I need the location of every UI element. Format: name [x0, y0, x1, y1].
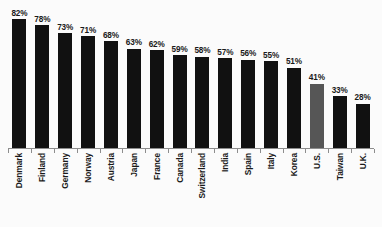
bar-slot: 28% — [351, 0, 374, 148]
bar-slot: 59% — [168, 0, 191, 148]
bar[interactable] — [287, 68, 301, 148]
category-label-slot: Japan — [122, 153, 145, 227]
bar[interactable] — [35, 25, 49, 148]
category-label-slot: Norway — [77, 153, 100, 227]
category-label: Italy — [267, 153, 276, 169]
bar[interactable] — [310, 84, 324, 149]
bar-value-label: 59% — [168, 45, 191, 54]
bar-value-label: 73% — [54, 23, 77, 32]
category-label-slot: Denmark — [8, 153, 31, 227]
category-label-slot: Austria — [100, 153, 123, 227]
bar-slot: 62% — [145, 0, 168, 148]
bar-value-label: 28% — [351, 93, 374, 102]
bar[interactable] — [218, 58, 232, 148]
bar[interactable] — [12, 19, 26, 148]
bar-slot: 78% — [31, 0, 54, 148]
category-label-slot: U.S. — [305, 153, 328, 227]
bar-slot: 63% — [122, 0, 145, 148]
category-label: U.S. — [312, 153, 321, 169]
category-label: Austria — [106, 153, 115, 181]
category-label-slot: Finland — [31, 153, 54, 227]
category-label-slot: Spain — [237, 153, 260, 227]
bar[interactable] — [356, 104, 370, 148]
bar[interactable] — [104, 41, 118, 148]
bar-value-label: 68% — [100, 31, 123, 40]
category-label-slot: Germany — [54, 153, 77, 227]
bar[interactable] — [333, 96, 347, 148]
plot-area: 82%78%73%71%68%63%62%59%58%57%56%55%51%4… — [8, 0, 374, 148]
bar-value-label: 56% — [237, 49, 260, 58]
category-label: Taiwan — [335, 153, 344, 180]
bar[interactable] — [81, 36, 95, 148]
bar-value-label: 82% — [8, 9, 31, 18]
category-label-slot: Switzerland — [191, 153, 214, 227]
bar[interactable] — [264, 61, 278, 148]
axis-tick — [374, 149, 375, 153]
bar-value-label: 58% — [191, 46, 214, 55]
bar-value-label: 63% — [122, 38, 145, 47]
category-label: Korea — [289, 153, 298, 176]
category-labels: DenmarkFinlandGermanyNorwayAustriaJapanF… — [8, 153, 374, 227]
category-label: France — [152, 153, 161, 180]
bar-value-label: 55% — [260, 51, 283, 60]
category-label: Japan — [129, 153, 138, 177]
category-label-slot: Italy — [260, 153, 283, 227]
bar-slot: 82% — [8, 0, 31, 148]
category-label-slot: France — [145, 153, 168, 227]
category-label: Germany — [61, 153, 70, 189]
bar-slot: 33% — [328, 0, 351, 148]
category-label: Denmark — [15, 153, 24, 188]
bar-slot: 73% — [54, 0, 77, 148]
bar-value-label: 41% — [305, 73, 328, 82]
bar-slot: 68% — [100, 0, 123, 148]
category-label: Norway — [84, 153, 93, 183]
bar-slot: 71% — [77, 0, 100, 148]
category-label: U.K. — [358, 153, 367, 169]
category-label-slot: U.K. — [351, 153, 374, 227]
category-label-slot: Canada — [168, 153, 191, 227]
bar-value-label: 78% — [31, 15, 54, 24]
bar-chart: 82%78%73%71%68%63%62%59%58%57%56%55%51%4… — [0, 0, 382, 227]
bar-value-label: 71% — [77, 26, 100, 35]
bar-slot: 51% — [283, 0, 306, 148]
bar-value-label: 33% — [328, 86, 351, 95]
bar[interactable] — [173, 55, 187, 148]
bar-slot: 41% — [305, 0, 328, 148]
category-label: Spain — [244, 153, 253, 175]
category-label: Finland — [38, 153, 47, 182]
bar[interactable] — [150, 50, 164, 148]
category-label-slot: Taiwan — [328, 153, 351, 227]
bar[interactable] — [58, 33, 72, 148]
category-label: India — [221, 153, 230, 172]
bar[interactable] — [195, 57, 209, 148]
bar-slot: 56% — [237, 0, 260, 148]
bar-slot: 57% — [214, 0, 237, 148]
category-label-slot: Korea — [283, 153, 306, 227]
bar[interactable] — [127, 49, 141, 148]
bar[interactable] — [241, 60, 255, 148]
bar-slot: 58% — [191, 0, 214, 148]
bar-slot: 55% — [260, 0, 283, 148]
category-label: Canada — [175, 153, 184, 183]
bar-value-label: 62% — [145, 40, 168, 49]
bar-value-label: 51% — [283, 57, 306, 66]
bar-value-label: 57% — [214, 48, 237, 57]
category-label-slot: India — [214, 153, 237, 227]
category-label: Switzerland — [198, 153, 207, 198]
